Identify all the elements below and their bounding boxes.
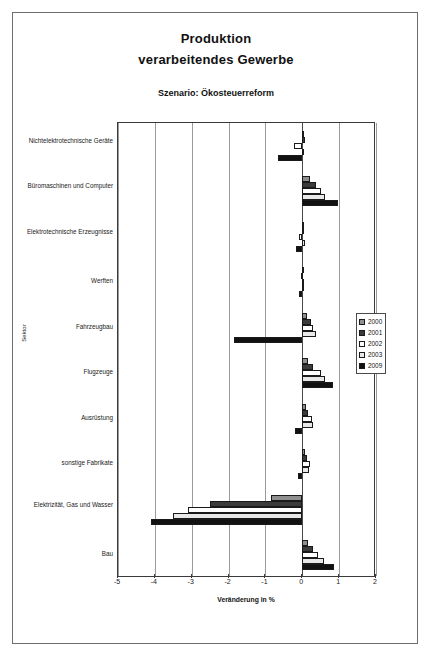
category-label: Fahrzeugbau [9,323,113,331]
category-label: Elektrizität, Gas und Wasser [9,501,113,509]
bar-2003 [302,422,313,428]
bar-2003 [302,331,315,337]
category-label: Büromaschinen und Computer [9,182,113,190]
legend-swatch-2000 [359,319,365,325]
chart-title: Produktion verarbeitendes Gewerbe [0,28,432,70]
legend-label: 2002 [368,340,382,347]
title-line-2: verarbeitendes Gewerbe [0,49,432,70]
bar-2009 [302,382,332,388]
legend-label: 2000 [368,318,382,325]
title-line-1: Produktion [0,28,432,49]
legend-item: 2002 [359,338,382,349]
x-axis-ticks: -5-4-3-2-1012 [117,578,375,592]
bar-group [118,214,374,260]
bar-2009 [298,473,302,479]
plot-area [117,122,375,577]
legend-item: 2000 [359,316,382,327]
bar-group [118,487,374,533]
category-label: sonstige Fabrikate [9,459,113,467]
bar-group [118,169,374,215]
bar-group [118,123,374,169]
bar-2009 [302,564,333,570]
legend-swatch-2001 [359,330,365,336]
bar-2009 [151,519,302,525]
legend-item: 2001 [359,327,382,338]
x-axis-title: Veränderung in % [117,596,375,603]
bar-2009 [299,291,303,297]
bar-2001 [302,137,305,143]
legend-item: 2003 [359,349,382,360]
bar-group [118,351,374,397]
bar-2003 [302,285,304,291]
bar-2003 [302,467,309,473]
legend-label: 2009 [368,362,382,369]
x-tick-label: -5 [105,578,129,585]
chart-page: Produktion verarbeitendes Gewerbe Szenar… [0,0,432,658]
category-label: Flugzeuge [9,368,113,376]
bar-group [118,396,374,442]
x-tick-label: 2 [363,578,387,585]
bar-2009 [295,428,302,434]
legend-label: 2001 [368,329,382,336]
legend-item: 2009 [359,360,382,371]
x-tick-label: 1 [326,578,350,585]
chart-subtitle: Szenario: Ökosteuerreform [0,88,432,98]
bar-2009 [302,200,338,206]
x-tick-label: 0 [289,578,313,585]
legend-swatch-2002 [359,341,365,347]
x-tick-label: -4 [142,578,166,585]
legend-swatch-2009 [359,363,365,369]
category-label: Werften [9,277,113,285]
bar-group [118,305,374,351]
bar-2009 [234,337,302,343]
bar-2002 [294,143,302,149]
bar-2003 [302,240,305,246]
x-tick-label: -3 [179,578,203,585]
category-label: Ausrüstung [9,414,113,422]
x-tick-label: -1 [252,578,276,585]
category-label: Bau [9,550,113,558]
chart-legend: 20002001200220032009 [356,313,386,374]
category-label: Elektrotechnische Erzeugnisse [9,228,113,236]
bar-2003 [302,149,304,155]
bar-2009 [296,246,303,252]
legend-label: 2003 [368,351,382,358]
x-tick-label: -2 [216,578,240,585]
legend-swatch-2003 [359,352,365,358]
category-label-list: Nichtelektrotechnische GeräteBüromaschin… [5,122,113,577]
bar-2001 [302,228,304,234]
bar-group [118,442,374,488]
bar-group [118,533,374,579]
bar-group [118,260,374,306]
bar-2009 [278,155,302,161]
category-label: Nichtelektrotechnische Geräte [9,137,113,145]
